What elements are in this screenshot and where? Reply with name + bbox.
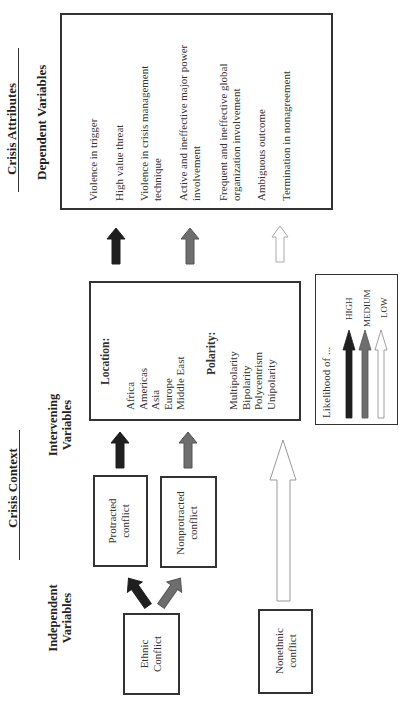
dependent-item: Violence in trigger: [87, 119, 100, 201]
dependent-item: Violence in crisis management technique: [138, 66, 163, 201]
arrow-diagonal-medium-icon: [155, 570, 195, 610]
independent-variables-heading: Independent Variables: [46, 568, 74, 668]
polarity-title: Polarity:: [205, 295, 218, 375]
nonethnic-conflict-label: Nonethnic conflict: [273, 620, 298, 682]
polarity-list: Multipolarity Bipolarity Polycentrism Un…: [227, 351, 277, 410]
crisis-context-underline: [19, 430, 20, 560]
location-item: Africa: [124, 357, 137, 410]
location-item: Europe: [162, 357, 175, 410]
legend-label-high: HIGH: [343, 298, 356, 321]
dependent-item: Termination in nonagreement: [280, 71, 293, 201]
crisis-attributes-underline: [18, 48, 19, 192]
legend-label-low: LOW: [378, 298, 391, 319]
dependent-item: Active and ineffective major power invol…: [177, 45, 202, 201]
dependent-variables-heading: Dependent Variables: [34, 50, 50, 180]
location-item: Asia: [149, 357, 162, 410]
location-item: Americas: [137, 357, 150, 410]
arrow-low-icon: [271, 226, 289, 262]
arrow-high-icon: [111, 432, 129, 468]
arrow-large-low-icon: [268, 440, 300, 604]
legend-label-medium: MEDIUM: [361, 290, 374, 328]
arrow-diagonal-high-icon: [118, 570, 158, 610]
arrow-medium-icon: [179, 432, 197, 468]
arrow-medium-icon: [181, 228, 199, 264]
legend-arrow-medium-icon: [358, 330, 372, 418]
location-list: Africa Americas Asia Europe Middle East: [124, 357, 187, 410]
legend-arrow-low-icon: [374, 330, 388, 418]
dependent-item: Ambiguous outcome: [255, 109, 268, 201]
location-item: Middle East: [174, 357, 187, 410]
legend-arrow-high-icon: [342, 330, 356, 418]
polarity-item: Unipolarity: [265, 351, 278, 410]
dependent-item: High value threat: [113, 125, 126, 201]
polarity-item: Polycentrism: [252, 351, 265, 410]
arrow-high-icon: [107, 228, 125, 264]
nonprotracted-conflict-label: Nonprotracted conflict: [174, 483, 199, 563]
protracted-conflict-label: Protracted conflict: [106, 482, 131, 560]
location-title: Location:: [99, 295, 112, 385]
ethnic-conflict-label: Ethnic Conflict: [138, 624, 163, 684]
legend-title: Likelihood of ...: [320, 347, 333, 418]
polarity-item: Bipolarity: [240, 351, 253, 410]
polarity-item: Multipolarity: [227, 351, 240, 410]
intervening-variables-heading: Intervening Variables: [46, 380, 74, 470]
dependent-item: Frequent and ineffective global organiza…: [217, 63, 242, 201]
